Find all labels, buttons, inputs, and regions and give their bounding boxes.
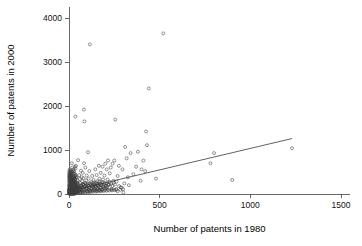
data-point (136, 150, 139, 153)
data-point (95, 174, 98, 177)
y-tick-label: 3000 (43, 57, 62, 67)
data-point (106, 178, 109, 181)
y-axis-title: Number of patents in 2000 (5, 45, 16, 157)
data-point (125, 157, 128, 160)
data-point (145, 144, 148, 147)
data-point (122, 191, 125, 194)
data-point (129, 152, 132, 155)
data-point (78, 174, 81, 177)
data-point (87, 151, 90, 154)
data-point (74, 115, 77, 118)
data-point (70, 162, 73, 165)
data-point (91, 174, 94, 177)
data-point (79, 169, 82, 172)
data-point (106, 159, 109, 162)
data-point (147, 87, 150, 90)
data-point (127, 184, 130, 187)
data-point (99, 171, 102, 174)
data-point (77, 159, 80, 162)
data-point (111, 162, 114, 165)
data-point (104, 162, 107, 165)
data-point (94, 168, 97, 171)
data-point (82, 177, 85, 180)
data-point (114, 118, 117, 121)
data-point (105, 168, 108, 171)
data-point (85, 174, 88, 177)
data-point (98, 177, 101, 180)
data-point (135, 165, 138, 168)
data-point (123, 182, 126, 185)
data-point (109, 166, 112, 169)
data-point (102, 178, 105, 181)
data-point (82, 108, 85, 111)
data-point (140, 168, 143, 171)
plot-canvas: 05001000150001000200030004000Number of p… (0, 0, 362, 246)
data-points-layer (68, 32, 294, 195)
data-point (231, 178, 234, 181)
y-tick-label: 1000 (43, 145, 62, 155)
data-point (132, 173, 135, 176)
data-point (88, 170, 91, 173)
data-point (124, 145, 127, 148)
data-point (83, 162, 86, 165)
scatter-plot-figure: 05001000150001000200030004000Number of p… (0, 0, 362, 246)
data-point (117, 164, 120, 167)
data-point (88, 43, 91, 46)
data-point (108, 172, 111, 175)
y-tick-label: 2000 (43, 101, 62, 111)
data-point (139, 179, 142, 182)
y-tick-label: 4000 (43, 13, 62, 23)
x-axis-title: Number of patents in 1980 (154, 223, 266, 234)
data-point (101, 165, 104, 168)
data-point (116, 174, 119, 177)
data-point (144, 170, 147, 173)
data-point (142, 159, 145, 162)
data-point (97, 164, 100, 167)
data-point (80, 176, 83, 179)
data-point (213, 152, 216, 155)
data-point (162, 32, 165, 35)
x-tick-label: 0 (67, 200, 72, 210)
axis-labels-layer: 05001000150001000200030004000Number of p… (5, 13, 351, 234)
y-tick-label: 0 (57, 189, 62, 199)
data-point (84, 166, 87, 169)
data-point (209, 162, 212, 165)
x-tick-label: 500 (153, 200, 167, 210)
data-point (145, 130, 148, 133)
x-tick-label: 1500 (332, 200, 351, 210)
axes-layer (65, 7, 350, 198)
data-point (83, 120, 86, 123)
x-tick-label: 1000 (241, 200, 260, 210)
data-point (155, 177, 158, 180)
data-point (103, 174, 106, 177)
data-point (291, 147, 294, 150)
data-point (113, 159, 116, 162)
data-point (121, 168, 124, 171)
